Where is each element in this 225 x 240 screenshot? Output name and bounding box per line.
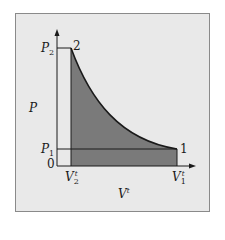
origin-label: 0 — [47, 158, 55, 170]
y-axis-arrow-icon — [55, 29, 60, 36]
point-1-label: 1 — [180, 143, 188, 155]
p2-tick-label: P2 — [41, 42, 54, 57]
x-axis-label: Vt — [118, 188, 130, 200]
v1-tick-label: V1t — [172, 171, 185, 186]
x-axis-arrow-icon — [189, 164, 196, 169]
y-axis-label: P — [29, 102, 37, 114]
p1-tick-label: P1 — [41, 143, 54, 158]
v2-tick-label: V2t — [65, 171, 78, 186]
work-area — [71, 48, 177, 166]
point-2-label: 2 — [73, 40, 81, 52]
